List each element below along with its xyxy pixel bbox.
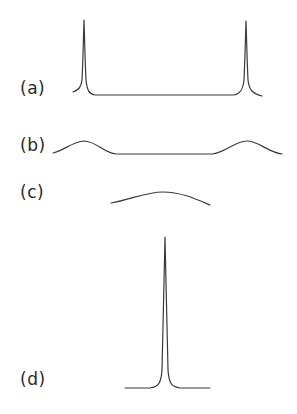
trace-c <box>111 192 210 205</box>
trace-b <box>53 141 282 154</box>
traces-canvas <box>0 0 297 414</box>
trace-a <box>73 20 262 96</box>
spectral-lineshape-figure: (a) (b) (c) (d) <box>0 0 297 414</box>
trace-d <box>125 237 210 388</box>
